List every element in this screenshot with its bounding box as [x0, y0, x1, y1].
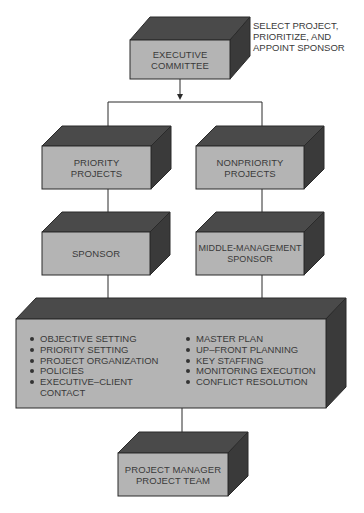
priority-projects-label: PRIORITY PROJECTS [42, 146, 151, 189]
list-item-continuation: CONTACT [40, 388, 158, 399]
project-manager-team-label: PROJECT MANAGER PROJECT TEAM [118, 453, 228, 496]
middle-management-sponsor-label: MIDDLE-MANAGEMENT SPONSOR [196, 232, 304, 275]
executive-annotation: SELECT PROJECT, PRIORITIZE, AND APPOINT … [253, 20, 345, 53]
list-item: EXECUTIVE–CLIENT CONTACT [29, 377, 158, 399]
responsibilities-left-list: OBJECTIVE SETTING PRIORITY SETTING PROJE… [29, 334, 158, 399]
responsibilities-right-list: MASTER PLAN UP–FRONT PLANNING KEY STAFFI… [185, 334, 316, 388]
sponsor-label: SPONSOR [42, 232, 150, 275]
executive-committee-label: EXECUTIVE COMMITTEE [130, 40, 230, 79]
nonpriority-projects-label: NONPRIORITY PROJECTS [196, 146, 304, 189]
list-item: CONFLICT RESOLUTION [185, 377, 316, 388]
